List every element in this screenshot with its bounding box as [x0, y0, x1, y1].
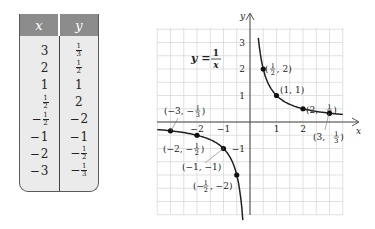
svg-text:2: 2: [195, 149, 199, 157]
point-label-1-1: (1, 1): [280, 85, 304, 95]
y-tick-label: 2: [239, 64, 245, 74]
point-label-neg1-neg1: (−1, −1): [182, 162, 221, 172]
leader-line: [171, 118, 178, 131]
x-tick-label: 1: [274, 124, 280, 134]
data-point: [300, 106, 305, 111]
data-point: [274, 93, 279, 98]
leader-line: [205, 148, 224, 163]
svg-text:, 2): , 2): [277, 64, 292, 74]
data-point: [194, 133, 199, 138]
equation-label: y =: [190, 52, 210, 65]
svg-text:): ): [333, 105, 337, 115]
y-tick-label: 1: [239, 91, 245, 101]
data-point: [234, 172, 239, 177]
svg-text:(2,: (2,: [306, 105, 318, 115]
y-axis-label: y: [239, 11, 246, 21]
equation-numerator: 1: [213, 48, 219, 58]
reciprocal-graph: xy−2−112−1123(12, 2)(1, 1)(2, 12)(3, 13)…: [0, 0, 375, 229]
x-axis-label: x: [356, 126, 361, 136]
point-label-neghalf-neg2: (−12, −2): [193, 179, 232, 195]
svg-text:2: 2: [204, 186, 208, 194]
svg-text:): ): [202, 106, 206, 116]
y-tick-label: 3: [239, 38, 245, 48]
svg-text:): ): [340, 132, 344, 142]
svg-text:): ): [201, 144, 205, 154]
svg-text:2: 2: [271, 69, 275, 77]
equation-denominator: x: [212, 60, 219, 70]
svg-text:3: 3: [196, 111, 200, 119]
x-tick-label: −1: [217, 124, 230, 134]
point-label-2-half: (2, 12): [306, 103, 337, 119]
svg-text:(−: (−: [193, 181, 204, 191]
point-label-3-third: (3, 13): [313, 130, 344, 146]
x-tick-label: 2: [300, 124, 306, 134]
svg-text:(3,: (3,: [313, 132, 325, 142]
svg-text:(1, 1): (1, 1): [280, 85, 304, 95]
svg-text:(−1, −1): (−1, −1): [182, 162, 221, 172]
svg-text:(−3, −: (−3, −: [164, 106, 194, 116]
y-tick-label: −1: [232, 144, 245, 154]
svg-text:, −2): , −2): [210, 181, 233, 191]
svg-text:(: (: [265, 64, 269, 74]
svg-text:3: 3: [334, 137, 338, 145]
x-tick-label: −2: [190, 124, 203, 134]
svg-text:(−2, −: (−2, −: [163, 144, 193, 154]
